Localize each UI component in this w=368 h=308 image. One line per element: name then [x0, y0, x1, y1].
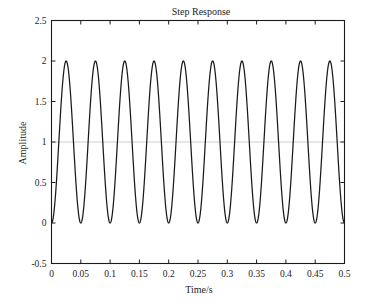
y-axis-label: Amplitude [17, 121, 28, 164]
x-tick-label: 0.35 [248, 269, 265, 279]
y-tick-label: 1.5 [35, 97, 47, 107]
x-tick-label: 0 [49, 269, 54, 279]
x-tick-label: 0.25 [190, 269, 207, 279]
y-tick-label: 1 [42, 137, 47, 147]
x-tick-label: 0.1 [104, 269, 116, 279]
x-tick-label: 0.5 [339, 269, 351, 279]
y-tick-label: 0.5 [35, 178, 47, 188]
chart-title: Step Response [172, 6, 231, 17]
x-axis-label: Time/s [185, 284, 213, 295]
y-tick-label: 2.5 [35, 16, 47, 26]
x-tick-label: 0.45 [307, 269, 324, 279]
x-axis-tick-labels: 00.050.10.150.20.250.30.350.40.450.5 [49, 269, 351, 279]
x-tick-label: 0.05 [72, 269, 89, 279]
x-tick-label: 0.15 [131, 269, 148, 279]
y-tick-label: -0.5 [31, 259, 46, 269]
y-axis-tick-labels: 2.521.510.50-0.5 [31, 16, 46, 269]
x-tick-label: 0.3 [221, 269, 233, 279]
step-response-chart: Step Response Amplitude Time/s 00.050.10… [0, 0, 368, 308]
y-tick-label: 2 [42, 56, 47, 66]
x-tick-label: 0.4 [280, 269, 292, 279]
y-tick-label: 0 [42, 218, 47, 228]
chart-figure: Step Response Amplitude Time/s 00.050.10… [0, 0, 368, 308]
x-tick-label: 0.2 [163, 269, 175, 279]
